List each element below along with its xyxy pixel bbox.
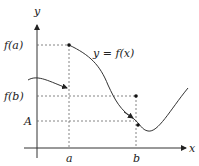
guide-lines (37, 45, 136, 148)
point-b-fb (134, 94, 138, 98)
curve-arrow-to-b (124, 112, 133, 118)
A-label: A (23, 115, 32, 128)
y-axis-label: y (33, 5, 41, 18)
x-axis-label: x (189, 142, 196, 155)
fb-label: f(b) (3, 90, 24, 103)
function-diagram: y x f(a) f(b) A a b y = f(x) (0, 0, 199, 166)
point-a-fa (67, 43, 71, 47)
b-tick-label: b (133, 152, 140, 165)
left-curve-arrow (28, 78, 67, 88)
fa-label: f(a) (3, 39, 23, 52)
a-tick-label: a (66, 152, 73, 165)
point-near-b (136, 123, 140, 127)
curve-label: y = f(x) (92, 47, 134, 60)
